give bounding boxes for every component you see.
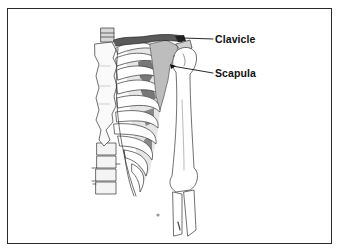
label-scapula: Scapula	[215, 67, 256, 79]
ulna	[184, 190, 196, 236]
skeleton-illustration	[0, 0, 340, 251]
cervical-vertebra	[101, 28, 114, 42]
humerus	[170, 47, 198, 192]
spine-vertebrae	[92, 143, 120, 194]
label-clavicle: Clavicle	[215, 33, 256, 45]
radius	[173, 192, 182, 236]
sternum	[95, 42, 117, 146]
clavicle-leader-line	[183, 38, 213, 39]
